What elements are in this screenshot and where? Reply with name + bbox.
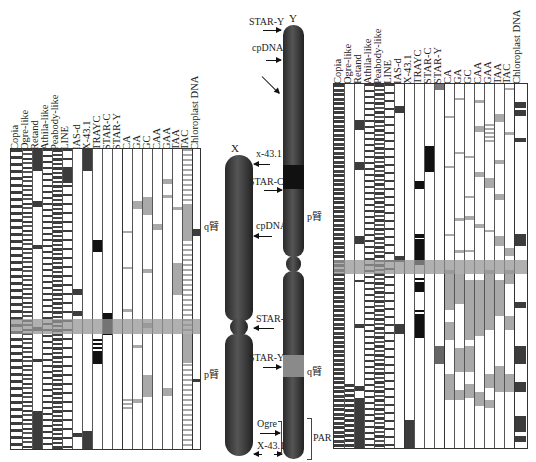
arrow-icon bbox=[262, 76, 280, 94]
y-label-p-arm: p臂 bbox=[307, 208, 322, 223]
col-gc bbox=[142, 149, 152, 449]
arrow-icon bbox=[266, 60, 281, 61]
arrow-icon bbox=[274, 454, 282, 455]
y-chromosome-title: Y bbox=[289, 12, 297, 24]
arrow-icon bbox=[260, 433, 280, 434]
col-header: LINE bbox=[60, 126, 70, 150]
col-starc bbox=[102, 149, 112, 449]
col-header: Chloroplast DNA bbox=[512, 10, 522, 84]
col-ca bbox=[122, 149, 132, 449]
left-repeat-table bbox=[10, 148, 201, 450]
col-ga bbox=[132, 149, 142, 449]
arrow-icon bbox=[254, 236, 272, 237]
col-x431 bbox=[82, 149, 92, 449]
y-starc-band bbox=[283, 165, 304, 189]
col-ogre bbox=[22, 149, 32, 449]
y-label-q-arm: q臂 bbox=[307, 363, 322, 378]
y-label-starc: STAR-C bbox=[249, 176, 284, 187]
col-iasd bbox=[72, 149, 82, 449]
col-taa bbox=[172, 149, 182, 449]
arrow-icon bbox=[254, 328, 274, 329]
arrow-icon bbox=[254, 164, 270, 165]
col-caa bbox=[152, 149, 162, 449]
col-gaa bbox=[162, 149, 172, 449]
y-label-stary-top: STAR-Y bbox=[249, 16, 284, 27]
y-stary-band bbox=[283, 355, 304, 377]
label-ogre: Ogre bbox=[257, 418, 277, 429]
col-trayc bbox=[92, 149, 102, 449]
col-header: Chloroplast DNA bbox=[190, 76, 200, 150]
y-chromosome-p-arm bbox=[283, 25, 304, 257]
y-label-stary: STAR-Y bbox=[249, 352, 284, 363]
label-x431: X-43.1 bbox=[257, 440, 285, 451]
arrow-icon bbox=[264, 190, 282, 191]
col-line bbox=[62, 149, 72, 449]
arrow-icon bbox=[254, 454, 262, 455]
left-q-arm-label: q臂 bbox=[204, 218, 219, 233]
col-athila bbox=[42, 149, 52, 449]
right-repeat-table bbox=[333, 83, 528, 449]
left-p-arm-label: p臂 bbox=[204, 366, 219, 381]
x-label-x431: x-43.1 bbox=[256, 148, 282, 159]
col-tac bbox=[182, 149, 192, 449]
col-chloroplast bbox=[192, 149, 200, 449]
y-chromosome-centromere bbox=[286, 256, 301, 272]
arrow-icon bbox=[263, 30, 281, 31]
col-peabody bbox=[52, 149, 62, 449]
y-label-cpdna: cpDNA bbox=[252, 42, 283, 53]
label-par: PAR bbox=[313, 432, 332, 443]
arrow-icon bbox=[263, 367, 281, 368]
col-stary bbox=[112, 149, 122, 449]
col-copia bbox=[11, 149, 22, 449]
col-retand bbox=[32, 149, 42, 449]
centromere-highlight-band bbox=[11, 319, 200, 334]
par-bracket bbox=[307, 418, 312, 460]
x-chromosome-title: X bbox=[231, 142, 239, 154]
centromere-highlight-band bbox=[334, 260, 527, 274]
